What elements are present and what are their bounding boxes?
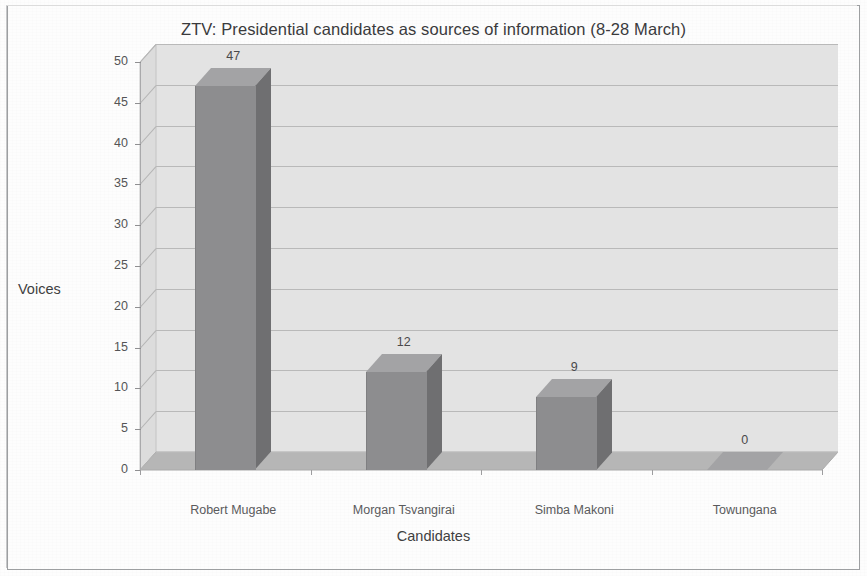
y-axis-title: Voices	[18, 281, 61, 297]
y-tick-label: 35	[88, 176, 128, 190]
bar: 0	[140, 44, 838, 488]
y-tick-mark	[135, 429, 141, 430]
bar-value-label: 0	[715, 433, 775, 447]
y-tick-label: 50	[88, 54, 128, 68]
x-tick-label: Simba Makoni	[479, 503, 669, 517]
y-tick-mark	[135, 348, 141, 349]
y-tick-label: 10	[88, 380, 128, 394]
y-tick-label: 30	[88, 217, 128, 231]
y-tick-label: 40	[88, 136, 128, 150]
y-tick-label: 25	[88, 258, 128, 272]
y-tick-mark	[135, 266, 141, 267]
x-tick-label: Morgan Tsvangirai	[309, 503, 499, 517]
chart-title: ZTV: Presidential candidates as sources …	[0, 20, 867, 39]
y-tick-mark	[135, 144, 141, 145]
y-tick-label: 45	[88, 95, 128, 109]
x-axis-title: Candidates	[0, 528, 867, 544]
y-tick-mark	[135, 225, 141, 226]
x-tick-mark	[311, 470, 312, 475]
y-tick-mark	[135, 388, 141, 389]
x-tick-mark	[822, 470, 823, 475]
x-tick-mark	[140, 470, 141, 475]
y-tick-mark	[135, 307, 141, 308]
x-tick-label: Towungana	[650, 503, 840, 517]
x-tick-label: Robert Mugabe	[138, 503, 328, 517]
y-tick-label: 20	[88, 299, 128, 313]
y-tick-label: 0	[88, 462, 128, 476]
x-tick-mark	[652, 470, 653, 475]
y-tick-mark	[135, 62, 141, 63]
y-tick-mark	[135, 184, 141, 185]
y-tick-mark	[135, 103, 141, 104]
y-tick-label: 5	[88, 421, 128, 435]
bar-side-face	[767, 452, 783, 470]
y-tick-label: 15	[88, 340, 128, 354]
plot-area: 471290	[140, 44, 838, 488]
x-tick-mark	[481, 470, 482, 475]
chart-figure: ZTV: Presidential candidates as sources …	[0, 0, 867, 576]
